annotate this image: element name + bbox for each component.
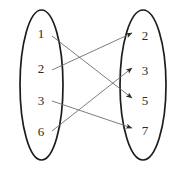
codomain-node-3: 3 [138,64,152,77]
domain-node-6: 6 [34,125,48,138]
codomain-node-5: 5 [138,94,152,107]
codomain-node-7: 7 [138,124,152,137]
codomain-node-2: 2 [138,29,152,42]
diagram-canvas [0,0,173,169]
domain-node-2: 2 [34,62,48,75]
domain-node-3: 3 [34,94,48,107]
mapping-diagram: 1 2 3 6 2 3 5 7 [0,0,173,169]
domain-node-1: 1 [34,27,48,40]
